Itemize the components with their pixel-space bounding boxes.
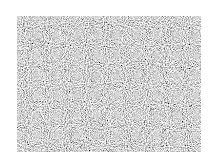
- noise-pattern: [17, 16, 201, 152]
- noise-texture-image: [17, 16, 201, 152]
